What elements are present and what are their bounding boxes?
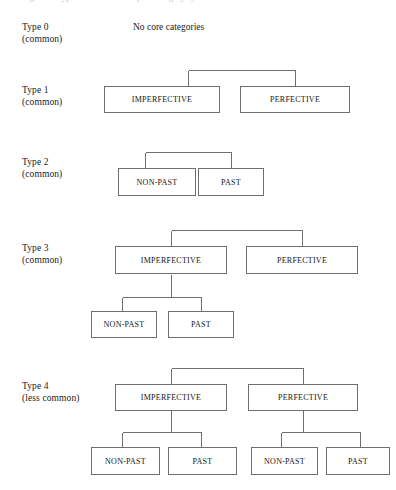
type1-node-perfective: PERFECTIVE <box>240 86 350 113</box>
type4-node-imperfective: IMPERFECTIVE <box>115 384 227 411</box>
type4-node-perfective: PERFECTIVE <box>248 384 358 411</box>
type3-node-imperfective: IMPERFECTIVE <box>115 246 227 274</box>
type3-node-nonpast: NON-PAST <box>91 311 157 338</box>
row-label-type-2-line2: (common) <box>22 169 62 181</box>
row-label-type-1: Type 1 (common) <box>22 85 62 108</box>
row-label-type-4: Type 4 (less common) <box>22 381 80 404</box>
row-label-type-3-line1: Type 3 <box>22 243 62 255</box>
type4-node-past-left: PAST <box>168 447 237 475</box>
type2-node-nonpast: NON-PAST <box>118 168 196 196</box>
row-label-type-1-line1: Type 1 <box>22 85 62 97</box>
row-label-type-4-line2: (less common) <box>22 393 80 405</box>
row-label-type-3: Type 3 (common) <box>22 243 62 266</box>
row-label-type-2: Type 2 (common) <box>22 157 62 180</box>
type3-node-past: PAST <box>168 311 234 338</box>
row-label-type-0-line1: Type 0 <box>22 22 62 34</box>
row-label-type-2-line1: Type 2 <box>22 157 62 169</box>
row-label-type-0-line2: (common) <box>22 34 62 46</box>
type4-node-past-right: PAST <box>326 447 390 475</box>
type3-node-perfective: PERFECTIVE <box>246 246 358 274</box>
row-label-type-1-line2: (common) <box>22 97 62 109</box>
type2-node-past: PAST <box>198 168 264 196</box>
diagram-page: Figure 1: Types of core tense-aspect cat… <box>0 0 396 490</box>
row-label-type-4-line1: Type 4 <box>22 381 80 393</box>
row-label-type-0: Type 0 (common) <box>22 22 62 45</box>
type4-node-nonpast-right: NON-PAST <box>251 447 318 475</box>
no-core-categories-note: No core categories <box>133 22 204 34</box>
type1-node-imperfective: IMPERFECTIVE <box>104 86 220 113</box>
type4-node-nonpast-left: NON-PAST <box>91 447 160 475</box>
row-label-type-3-line2: (common) <box>22 255 62 267</box>
